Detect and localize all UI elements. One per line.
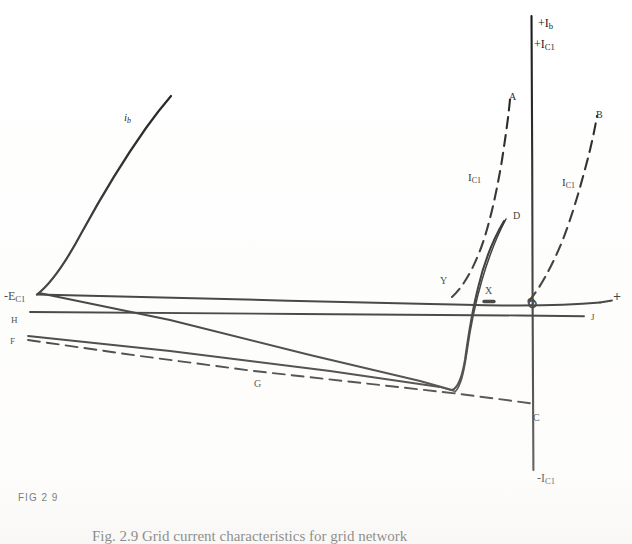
horizontal-axis — [37, 295, 600, 306]
curve-label-text: H — [11, 315, 18, 325]
figure-number: FIG 2 9 — [18, 492, 58, 503]
vertical-axis — [532, 16, 534, 470]
curve-label-subscript: C1 — [472, 176, 481, 185]
curve-label-g: G — [254, 379, 261, 389]
curve-label-text: A — [509, 91, 516, 102]
curve-label-text: F — [10, 336, 15, 346]
axis-label-minus-ec1: -EC1 — [4, 290, 25, 304]
curve-b-dashed — [529, 116, 597, 301]
curve-label-d: D — [513, 211, 520, 221]
axis-label-plus-ib: +Ib — [538, 17, 553, 31]
curve-label-text: Y — [440, 275, 447, 286]
curve-label-ib: ib — [124, 112, 131, 125]
horizontal-axis-tip — [600, 301, 612, 303]
axis-label-minus-ic1-bottom: -IC1 — [537, 472, 555, 486]
axis-label-plus-ic1-top: +IC1 — [534, 38, 555, 52]
curve-label-ic1-a: IC1 — [468, 172, 481, 185]
axis-label-plus-right: + — [613, 290, 621, 304]
curve-label-text: D — [513, 210, 520, 221]
curve-label-text: J — [591, 312, 595, 322]
figure-container: +Ib +IC1 -IC1 -EC1 + O ibABDCGHFJXYIC1IC… — [0, 0, 632, 544]
curve-label-f: F — [10, 337, 15, 346]
figure-caption: Fig. 2.9 Grid current characteristics fo… — [92, 528, 407, 544]
curve-label-text: C — [533, 412, 540, 423]
curve-label-a: A — [509, 92, 516, 102]
curve-label-ic1-b: IC1 — [562, 177, 575, 190]
curve-label-y: Y — [440, 276, 447, 286]
curve-label-b: B — [596, 110, 603, 120]
curve-label-x: X — [485, 286, 492, 296]
curve-label-c: C — [533, 413, 540, 423]
curve-label-subscript: b — [127, 116, 131, 125]
curve-label-h: H — [11, 316, 18, 325]
curve-label-text: G — [254, 378, 261, 389]
curve-label-subscript: C1 — [566, 181, 575, 190]
curve-label-j: J — [591, 313, 595, 322]
line-g-dashed — [28, 340, 536, 404]
origin-label-o: O — [527, 296, 535, 307]
curve-label-text: B — [596, 109, 603, 120]
line-descending-solid — [39, 293, 452, 390]
curve-a-dashed — [452, 99, 510, 297]
curve-ib — [37, 96, 171, 295]
diagram-canvas — [0, 0, 632, 544]
curve-label-text: X — [485, 285, 492, 296]
load-line-h — [30, 312, 584, 316]
load-line-f — [28, 336, 454, 391]
